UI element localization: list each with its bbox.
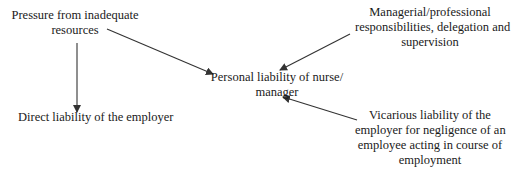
node-direct-liability-of-employer: Direct liability of the employer xyxy=(18,110,160,125)
node-line: resources xyxy=(10,23,140,38)
arrow-managerial-to-personal xyxy=(280,34,350,70)
node-line: Personal liability of nurse/ xyxy=(202,70,352,85)
node-line: manager xyxy=(202,85,352,100)
node-line: supervision xyxy=(355,35,505,50)
node-managerial-professional-responsibilities: Managerial/professional responsibilities… xyxy=(355,5,505,50)
arrow-vicarious-to-personal xyxy=(283,97,357,120)
node-vicarious-liability-of-employer: Vicarious liability of the employer for … xyxy=(355,108,505,168)
node-line: Direct liability of the employer xyxy=(18,110,160,125)
node-line: responsibilities, delegation and xyxy=(355,20,505,35)
node-personal-liability-nurse-manager: Personal liability of nurse/ manager xyxy=(202,70,352,100)
node-line: Vicarious liability of the xyxy=(355,108,505,123)
node-line: employment xyxy=(355,153,505,168)
node-line: employee acting in course of xyxy=(355,138,505,153)
node-pressure-from-inadequate-resources: Pressure from inadequate resources xyxy=(10,8,140,38)
node-line: employer for negligence of an xyxy=(355,123,505,138)
node-line: Managerial/professional xyxy=(355,5,505,20)
node-line: Pressure from inadequate xyxy=(10,8,140,23)
